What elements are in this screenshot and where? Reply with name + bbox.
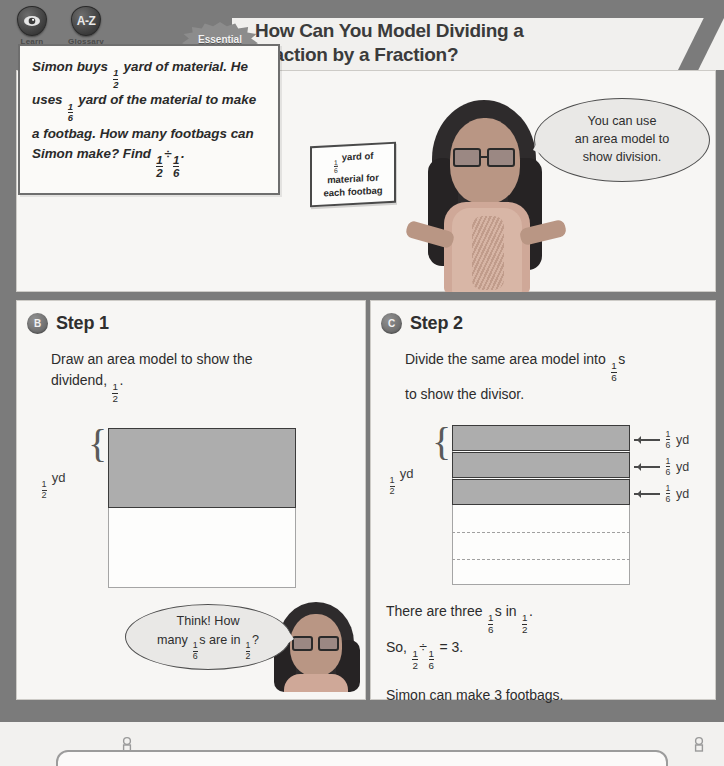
lesson-page: Learn A-Z Glossary Essential Question Ho… (0, 0, 724, 766)
area-model-step-2-band-1 (452, 425, 630, 451)
a-z-icon: A-Z (71, 6, 101, 36)
brace-step-2-unit: yd (400, 466, 414, 481)
character-glasses-right (487, 148, 515, 167)
conclusion-fraction-one-sixth: 16 (488, 613, 493, 635)
pin-icon-right (690, 736, 708, 754)
arrow-icon-band-3 (634, 493, 660, 494)
step-2-instruction: Divide the same area model into 16s to s… (405, 349, 693, 405)
brace-label-step-2: 12 yd (388, 466, 413, 497)
think-fraction-one-sixth: 16 (193, 641, 198, 661)
area-model-step-2-dashed-1 (452, 532, 630, 533)
bottom-activity-card (56, 750, 668, 766)
callout-line2: material for (327, 172, 379, 186)
fraction-divisor: 16 (173, 154, 179, 180)
brace-step-1-fraction: 12 (42, 480, 47, 501)
step-1-instruction: Draw an area model to show the dividend,… (51, 349, 341, 405)
step-1-letter-badge: B (27, 313, 48, 334)
step-2-line1-pre: Divide the same area model into (405, 351, 610, 367)
equation-fraction-divisor: 16 (429, 649, 434, 671)
character-torso-small (284, 674, 348, 692)
brace-step-1-unit: yd (52, 470, 66, 485)
step-2-fraction: 16 (611, 361, 616, 383)
equation-fraction-dividend: 12 (412, 649, 417, 671)
band-label-3: 16 yd (634, 484, 689, 504)
step-2-letter-badge: C (381, 313, 402, 334)
step-2-line2: to show the divisor. (405, 386, 524, 402)
fraction-one-sixth: 16 (68, 103, 73, 124)
conclusion-fraction-one-half: 12 (522, 613, 527, 635)
step-1-line2-pre: dividend, (51, 372, 111, 388)
area-model-step-2 (452, 425, 630, 585)
band-1-fraction: 16 (666, 430, 671, 450)
band-label-1: 16 yd (634, 430, 689, 450)
conclusion-block-1: There are three 16s in 12. So, 12÷16 = 3… (386, 600, 686, 671)
word-problem-box: Simon buys 12 yard of material. He uses … (18, 44, 280, 195)
character-shirt-embroidery (472, 216, 504, 290)
problem-line2-post: yard of the material (74, 92, 201, 107)
brace-label-step-1: 12 yd (40, 470, 65, 501)
area-model-step-2-band-3 (452, 479, 630, 505)
character-glasses-bridge (481, 156, 487, 158)
footbag-material-callout: 16 yard of material for each footbag (310, 142, 396, 208)
toolbar-item-glossary[interactable]: A-Z Glossary (66, 6, 106, 46)
area-model-step-1-shaded-half (108, 428, 296, 508)
fraction-dividend: 12 (156, 154, 162, 180)
problem-period: . (181, 146, 185, 161)
speech-bubble-line2: an area model to (575, 131, 670, 149)
band-label-2: 16 yd (634, 457, 689, 477)
band-2-fraction: 16 (666, 457, 671, 477)
step-1-fraction: 12 (112, 382, 117, 404)
brace-step-2: { (432, 422, 451, 462)
speech-bubble-line3: show division. (575, 149, 670, 167)
arrow-icon-band-2 (634, 466, 660, 467)
step-1-title: Step 1 (56, 313, 109, 334)
speech-bubble-area-model: You can use an area model to show divisi… (534, 98, 710, 182)
problem-divide-sign: ÷ (164, 146, 171, 161)
callout-line1: yard of (339, 150, 373, 163)
toolbar-item-learn[interactable]: Learn (12, 6, 52, 46)
callout-fraction: 16 (334, 158, 338, 174)
problem-line1-pre: Simon buys (32, 59, 112, 74)
brace-step-2-fraction: 12 (390, 476, 395, 497)
step-1-line1: Draw an area model to show the (51, 351, 253, 367)
area-model-step-2-band-2 (452, 452, 630, 478)
step-1-line2-post: . (119, 372, 123, 388)
think-fraction-one-half: 12 (246, 641, 251, 661)
think-bubble-line2: many 16s are in 12? (157, 631, 259, 662)
band-3-fraction: 16 (666, 484, 671, 504)
brace-step-1: { (88, 424, 107, 464)
character-glasses-left (453, 148, 481, 167)
speech-bubble-think: Think! How many 16s are in 12? (125, 604, 291, 670)
toolbar: Learn A-Z Glossary (12, 6, 106, 46)
think-bubble-line1: Think! How (157, 612, 259, 630)
step-2-header: C Step 2 (381, 313, 463, 334)
speech-bubble-line1: You can use (575, 113, 670, 131)
step-2-line1-post: s (618, 351, 625, 367)
page-title-line1: How Can You Model Dividing a (255, 19, 655, 43)
step-1-header: B Step 1 (27, 313, 109, 334)
band-2-unit: yd (676, 460, 689, 474)
arrow-icon-band-1 (634, 439, 660, 440)
page-title-line2: Fraction by a Fraction? (255, 43, 655, 67)
eye-icon (17, 6, 47, 36)
band-3-unit: yd (676, 487, 689, 501)
area-model-step-1 (108, 428, 296, 588)
step-2-title: Step 2 (410, 313, 463, 334)
area-model-step-2-dashed-2 (452, 559, 630, 560)
step-2-conclusion: There are three 16s in 12. So, 12÷16 = 3… (386, 600, 686, 707)
a-z-icon-glyph: A-Z (77, 14, 96, 28)
character-glasses-small-right (318, 636, 339, 651)
conclusion-answer: Simon can make 3 footbags. (386, 684, 686, 707)
callout-line3: each footbag (323, 184, 382, 198)
page-title: How Can You Model Dividing a Fraction by… (255, 19, 655, 66)
problem-line1-post: yard of material. (120, 59, 227, 74)
fraction-one-half: 12 (113, 69, 118, 90)
band-1-unit: yd (676, 433, 689, 447)
